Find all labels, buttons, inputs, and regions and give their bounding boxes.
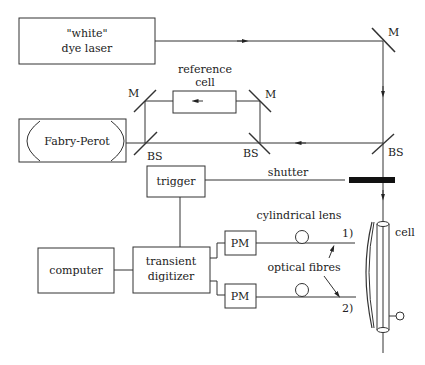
pm1-link xyxy=(210,243,225,258)
fabry-perot-label: Fabry-Perot xyxy=(44,135,110,148)
pm2-link xyxy=(210,281,225,295)
reference-cell-box xyxy=(173,91,236,113)
cylindrical-lens-inner xyxy=(369,222,374,328)
fibre-pointer-1 xyxy=(329,248,333,258)
laser-label-1: "white" xyxy=(66,27,107,40)
lens-1 xyxy=(296,231,309,244)
mirror-label-ref-right: M xyxy=(265,88,276,101)
cell-label: cell xyxy=(395,226,415,239)
optical-setup-diagram: "white" dye laser reference cell M M M B… xyxy=(0,0,425,365)
ref-cell-label-1: reference xyxy=(178,63,232,76)
ref-cell-label-2: cell xyxy=(195,76,215,89)
bs-label-right: BS xyxy=(388,146,404,159)
shutter-bar xyxy=(349,177,395,183)
shutter-label: shutter xyxy=(268,166,309,179)
fibre-pointer-2 xyxy=(324,276,338,295)
digitizer-label-1: transient xyxy=(146,255,197,268)
digitizer-label-2: digitizer xyxy=(148,270,195,283)
mirror-label-top-right: M xyxy=(388,26,399,39)
cell-top xyxy=(377,222,389,227)
bs-label-left: BS xyxy=(147,150,163,163)
dye-laser-box xyxy=(19,18,155,64)
pm2-label: PM xyxy=(231,290,250,303)
bs-label-mid: BS xyxy=(243,147,259,160)
computer-label: computer xyxy=(49,264,103,277)
cylindrical-lens-label: cylindrical lens xyxy=(257,209,342,222)
pm1-label: PM xyxy=(231,237,250,250)
mirror-label-ref-left: M xyxy=(128,87,139,100)
lens-2 xyxy=(296,284,309,297)
trigger-label: trigger xyxy=(156,175,196,188)
optical-fibres-label: optical fibres xyxy=(267,261,340,274)
fibre-1-label: 1) xyxy=(342,227,353,240)
cell-port-bulb xyxy=(396,312,404,320)
cell-bottom xyxy=(377,328,389,333)
fibre-2-label: 2) xyxy=(342,302,353,315)
laser-label-2: dye laser xyxy=(62,42,113,55)
